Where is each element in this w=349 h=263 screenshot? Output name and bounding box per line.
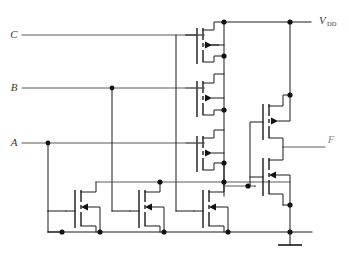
input-rail-a bbox=[22, 141, 204, 146]
nmos-arrow bbox=[269, 172, 276, 179]
input-drop-c bbox=[176, 35, 194, 211]
nmos-arrow bbox=[209, 204, 216, 211]
output-inverter-pmos-p4 bbox=[250, 95, 290, 186]
nmos-transistor-n3 bbox=[194, 182, 231, 235]
ground-symbol bbox=[278, 232, 302, 245]
label-input-c: C bbox=[10, 28, 18, 40]
pmos-transistor-p1 bbox=[186, 22, 224, 64]
label-output-f: F bbox=[327, 133, 335, 145]
input-drop-a bbox=[48, 143, 66, 211]
pmos-arrow bbox=[205, 150, 212, 157]
nmos-arrow bbox=[81, 204, 88, 211]
nmos-arrow bbox=[145, 204, 152, 211]
junction-dot bbox=[157, 179, 162, 184]
label-input-a: A bbox=[10, 136, 18, 148]
label-supply-subscript: DD bbox=[327, 20, 337, 27]
pmos-arrow bbox=[205, 42, 212, 49]
ground-rail bbox=[48, 229, 312, 234]
input-drop-b bbox=[112, 88, 130, 211]
input-rail-b bbox=[22, 86, 204, 91]
pmos-transistor-p3 bbox=[186, 130, 224, 172]
label-supply: V bbox=[319, 14, 327, 26]
nmos-left-return bbox=[48, 211, 65, 235]
cmos-complex-gate-schematic: C B A V DD F bbox=[0, 0, 349, 263]
vdd-rail bbox=[221, 19, 311, 97]
label-input-b: B bbox=[11, 81, 18, 93]
nmos-transistor-n1 bbox=[66, 182, 103, 235]
schematic-canvas: C B A V DD F bbox=[0, 0, 349, 263]
pmos-arrow bbox=[271, 118, 278, 125]
nmos-drain-tie bbox=[96, 179, 290, 184]
pmos-arrow bbox=[205, 95, 212, 102]
output-inverter-nmos-n4 bbox=[250, 147, 293, 232]
nmos-transistor-n2 bbox=[130, 182, 167, 235]
pmos-transistor-p2 bbox=[186, 74, 224, 117]
